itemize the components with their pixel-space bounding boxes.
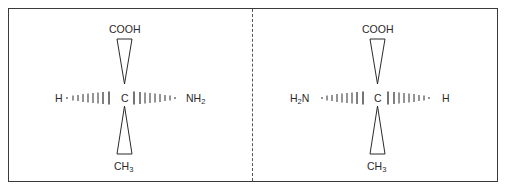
left-right-hash <box>134 92 175 105</box>
right-right-group-label: H <box>442 92 450 104</box>
right-left-group-tail: N <box>302 92 310 104</box>
left-bottom-group-label: CH3 <box>114 160 133 172</box>
left-left-group-label: H <box>55 92 63 104</box>
right-center-carbon-label: C <box>374 92 382 104</box>
bond-graphics <box>0 0 506 188</box>
left-center-carbon-label: C <box>121 92 129 104</box>
left-right-group-subscript: 2 <box>201 97 205 106</box>
left-right-group-main: NH <box>186 92 201 104</box>
right-right-hash <box>388 92 429 105</box>
left-top-group-label: COOH <box>109 23 141 35</box>
right-left-hash <box>322 92 363 105</box>
left-right-group-label: NH2 <box>186 92 205 104</box>
right-left-group-label: H2N <box>290 92 309 104</box>
right-top-group-label: COOH <box>362 23 394 35</box>
left-bottom-group-main: CH <box>114 160 129 172</box>
left-left-hash <box>67 92 109 105</box>
right-top-wedge <box>370 39 385 84</box>
right-bottom-group-subscript: 3 <box>382 165 386 174</box>
left-top-wedge <box>117 39 132 84</box>
right-bottom-wedge <box>370 106 385 154</box>
right-bottom-group-main: CH <box>367 160 382 172</box>
left-bottom-group-subscript: 3 <box>129 165 133 174</box>
right-bottom-group-label: CH3 <box>367 160 386 172</box>
right-left-group-main: H <box>290 92 298 104</box>
left-bottom-wedge <box>117 106 132 154</box>
